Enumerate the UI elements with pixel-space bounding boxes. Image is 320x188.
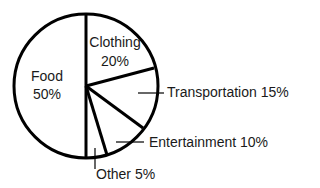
label-entertainment: Entertainment 10%	[149, 134, 268, 151]
label-food: Food 50%	[26, 68, 68, 103]
clothing-name: Clothing	[89, 34, 141, 51]
clothing-pct: 20%	[89, 53, 141, 70]
food-pct: 50%	[26, 86, 68, 103]
label-transportation: Transportation 15%	[167, 84, 289, 101]
label-clothing: Clothing 20%	[89, 34, 141, 70]
label-other: Other 5%	[96, 166, 155, 183]
food-name: Food	[26, 68, 68, 85]
